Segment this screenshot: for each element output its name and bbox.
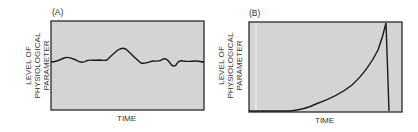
panel-a-plot-area xyxy=(51,21,204,110)
panel-b-plot-area xyxy=(249,22,402,112)
diagram-canvas xyxy=(0,0,418,132)
